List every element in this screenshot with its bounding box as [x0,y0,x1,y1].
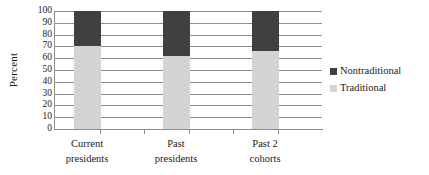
x-axis-category-label-line: Past [155,136,198,151]
x-axis-category-label: Currentpresidents [66,136,109,166]
x-axis-category-label-line: cohorts [250,151,281,166]
y-axis-tick-label: 40 [43,77,53,87]
legend-swatch-icon [330,85,337,92]
y-axis-tick-label: 100 [38,6,52,16]
y-axis-tick-label: 80 [43,30,53,40]
x-axis-category-label-line: presidents [66,151,109,166]
x-axis-category-label-line: Past 2 [250,136,281,151]
bar-group[interactable] [163,11,190,129]
legend-item[interactable]: Nontraditional [330,63,428,80]
legend-item-label: Traditional [340,83,386,94]
y-axis-tick-label: 70 [43,42,53,52]
bar-segment-traditional[interactable] [252,51,279,129]
x-axis-tick-mark [233,130,234,134]
y-axis-tick-label: 90 [43,18,53,28]
legend-item-label: Nontraditional [340,66,401,77]
plot-area [55,11,322,129]
legend: NontraditionalTraditional [330,63,428,97]
bar-segment-nontraditional[interactable] [74,11,101,46]
x-axis-category-labels: CurrentpresidentsPastpresidentsPast 2coh… [55,136,322,174]
bar-group[interactable] [252,11,279,129]
stacked-bar-chart: Percent 1009080706050403020100 Currentpr… [0,0,429,175]
x-axis-category-label-line: presidents [155,151,198,166]
y-axis-title-text: Percent [7,53,19,87]
y-axis-tick-label: 60 [43,53,53,63]
x-axis-tick-mark [100,130,101,134]
legend-swatch-icon [330,68,337,75]
x-axis-tick-mark [189,130,190,134]
bar-segment-traditional[interactable] [163,56,190,129]
y-axis-tick-label: 0 [47,124,52,134]
y-axis-tick-labels: 1009080706050403020100 [20,11,52,129]
bar-segment-nontraditional[interactable] [163,11,190,56]
x-axis-tick-mark [144,130,145,134]
x-axis-category-label-line: Current [66,136,109,151]
y-axis-tick-label: 20 [43,101,53,111]
y-axis-tick-label: 30 [43,89,53,99]
y-axis-tick-label: 50 [43,65,53,75]
bar-group[interactable] [74,11,101,129]
x-axis-tick-mark [278,130,279,134]
bar-series-container [55,11,322,129]
bar-segment-nontraditional[interactable] [252,11,279,51]
y-axis-tick-label: 10 [43,112,53,122]
x-axis-category-label: Pastpresidents [155,136,198,166]
bar-segment-traditional[interactable] [74,46,101,129]
x-axis-category-label: Past 2cohorts [250,136,281,166]
legend-item[interactable]: Traditional [330,80,428,97]
